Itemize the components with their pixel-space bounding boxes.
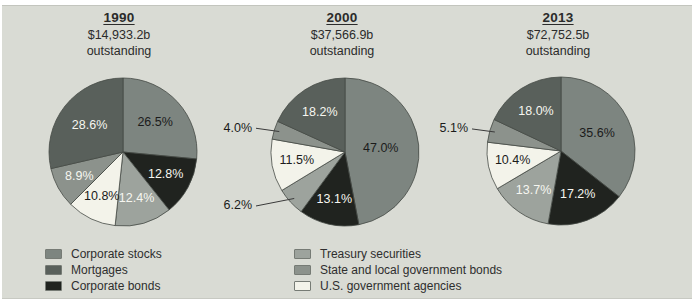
callout-line <box>256 198 294 205</box>
slice-label: 26.5% <box>137 115 172 129</box>
slice-label: 12.4% <box>119 191 154 205</box>
figure-page: 1990 $14,933.2b outstanding 2000 $37,566… <box>0 0 694 308</box>
slice-label: 28.6% <box>72 118 107 132</box>
slice-label: 10.8% <box>84 189 119 203</box>
slice-label: 18.0% <box>518 104 553 118</box>
slice-label: 10.4% <box>495 153 530 167</box>
slice-callout-label: 6.2% <box>224 198 253 212</box>
slice-label: 18.2% <box>302 105 337 119</box>
slice-label: 47.0% <box>363 141 398 155</box>
slice-label: 17.2% <box>560 187 595 201</box>
slice-label: 13.1% <box>317 192 352 206</box>
slice-label: 13.7% <box>516 183 551 197</box>
slice-label: 35.6% <box>579 126 614 140</box>
slice-label: 12.8% <box>148 167 183 181</box>
slice-label: 11.5% <box>280 153 315 167</box>
pie-charts-canvas: 26.5%12.8%12.4%10.8%8.9%28.6%47.0%13.1%6… <box>0 0 694 308</box>
slice-callout-label: 5.1% <box>440 121 469 135</box>
slice-label: 8.9% <box>65 169 94 183</box>
slice-callout-label: 4.0% <box>224 121 253 135</box>
